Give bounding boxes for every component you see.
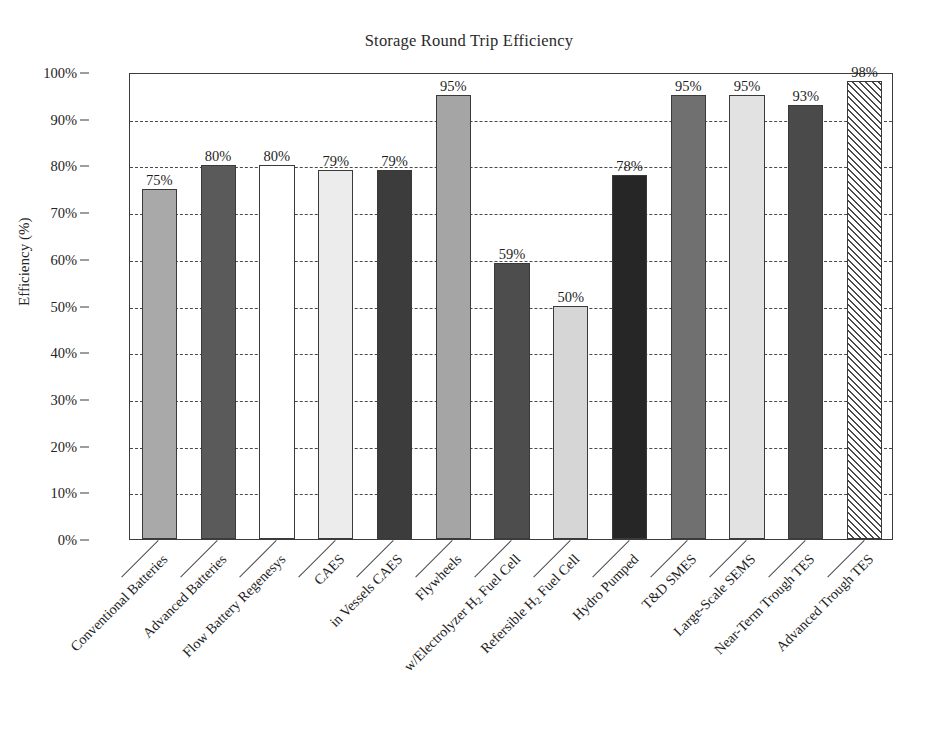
bar-value-label: 75% <box>142 172 177 191</box>
bar <box>788 105 823 539</box>
bar-value-label: 79% <box>318 153 353 172</box>
y-axis-tick-label: 100% <box>43 65 77 82</box>
bar <box>201 165 236 539</box>
bar <box>377 170 412 539</box>
bar <box>847 81 882 539</box>
gridline <box>130 121 892 122</box>
y-axis-tick-label: 60% <box>50 251 77 268</box>
bar-value-label: 98% <box>847 64 882 83</box>
bar-value-label: 79% <box>377 153 412 172</box>
y-axis-tick-label: 10% <box>50 485 77 502</box>
bar <box>729 95 764 539</box>
x-axis: Conventional BatteriesAdvanced Batteries… <box>0 540 938 737</box>
gridline <box>130 214 892 215</box>
bar-value-label: 95% <box>729 78 764 97</box>
y-axis-tick-label: 90% <box>50 111 77 128</box>
bar-value-label: 95% <box>436 78 471 97</box>
bar-value-label: 50% <box>553 289 588 308</box>
chart-title: Storage Round Trip Efficiency <box>0 31 938 51</box>
y-axis-tick-label: 70% <box>50 205 77 222</box>
bar <box>436 95 471 539</box>
storage-efficiency-bar-chart: Storage Round Trip Efficiency Efficiency… <box>0 0 938 737</box>
bar <box>142 189 177 539</box>
bar-value-label: 95% <box>671 78 706 97</box>
y-axis-tick-label: 40% <box>50 345 77 362</box>
plot-area: 75%80%80%79%79%95%59%50%78%95%95%93%98% <box>129 73 893 540</box>
bar-value-label: 80% <box>201 148 236 167</box>
y-axis-tick-mark <box>80 493 89 494</box>
bar-value-label: 78% <box>612 158 647 177</box>
y-axis-tick-mark <box>80 166 89 167</box>
y-axis-tick-mark <box>80 213 89 214</box>
bar <box>553 306 588 540</box>
y-axis-tick-mark <box>80 399 89 400</box>
y-axis-tick-label: 50% <box>50 298 77 315</box>
y-axis-tick-mark <box>80 259 89 260</box>
bar <box>612 175 647 539</box>
bar-value-label: 93% <box>788 88 823 107</box>
y-axis-tick-mark <box>80 73 89 74</box>
gridline <box>130 167 892 168</box>
y-axis-tick-mark <box>80 446 89 447</box>
y-axis-tick-label: 20% <box>50 438 77 455</box>
y-axis-tick-mark <box>80 306 89 307</box>
bar <box>318 170 353 539</box>
bar <box>494 263 529 539</box>
y-axis-tick-label: 80% <box>50 158 77 175</box>
bar-value-label: 80% <box>259 148 294 167</box>
y-axis-tick-mark <box>80 353 89 354</box>
y-axis-tick-label: 30% <box>50 391 77 408</box>
bar <box>671 95 706 539</box>
bar <box>259 165 294 539</box>
bar-value-label: 59% <box>494 246 529 265</box>
y-axis-tick-mark <box>80 119 89 120</box>
